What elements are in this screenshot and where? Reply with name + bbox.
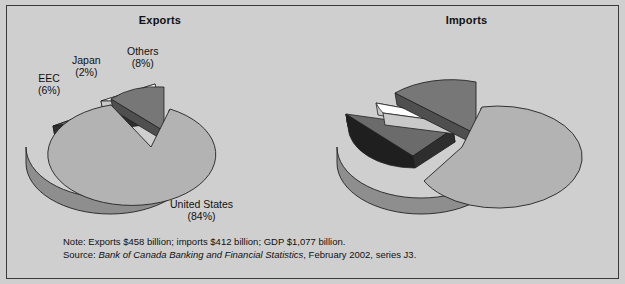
- label-japan-exports: Japan (2%): [72, 54, 101, 78]
- source-prefix: Source:: [63, 249, 98, 260]
- pie-chart-imports: [313, 6, 620, 234]
- label-united-states-exports: United States (84%): [170, 198, 233, 222]
- figure-border: Exports: [6, 5, 619, 279]
- pie-svg-exports: [7, 6, 313, 234]
- label-eec-pct-exports: (6%): [38, 84, 60, 96]
- figure-canvas: Exports: [0, 0, 625, 284]
- chart-panel-exports: Exports: [7, 6, 313, 234]
- label-others-pct-exports: (8%): [132, 57, 154, 69]
- label-us-name-exports: United States: [170, 198, 233, 210]
- label-eec-exports: EEC (6%): [38, 72, 60, 96]
- source-suffix: , February 2002, series J3.: [303, 249, 416, 260]
- label-others-exports: Others (8%): [127, 45, 159, 69]
- pie-svg-imports: [313, 6, 620, 234]
- label-japan-pct-exports: (2%): [75, 66, 97, 78]
- pie-chart-exports: [7, 6, 313, 234]
- figure-notes: Note: Exports $458 billion; imports $412…: [63, 236, 416, 261]
- label-us-pct-exports: (84%): [188, 210, 216, 222]
- label-eec-name-exports: EEC: [38, 72, 60, 84]
- note-line: Note: Exports $458 billion; imports $412…: [63, 236, 416, 249]
- label-others-name-exports: Others: [127, 45, 159, 57]
- chart-panel-imports: Imports: [313, 6, 620, 234]
- label-japan-name-exports: Japan: [72, 54, 101, 66]
- source-line: Source: Bank of Canada Banking and Finan…: [63, 249, 416, 262]
- source-publication-title: Bank of Canada Banking and Financial Sta…: [98, 249, 303, 260]
